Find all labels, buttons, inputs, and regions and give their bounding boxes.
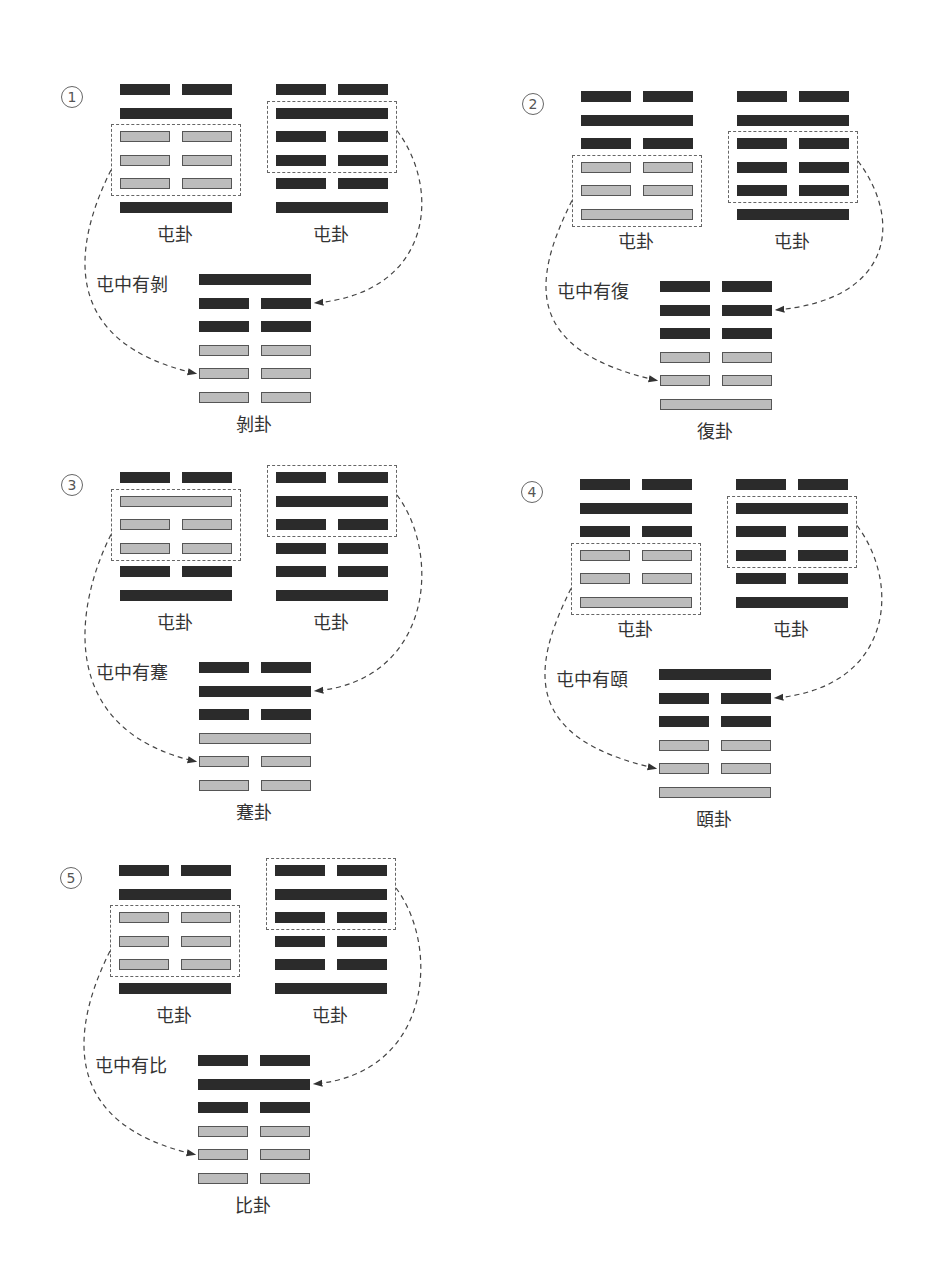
panel-1-result-hexagram-yin-line-3-right [261, 321, 311, 332]
panel-3-right-hexagram-yang-line-6 [276, 590, 388, 601]
panel-2-caption: 屯中有復 [557, 277, 629, 303]
panel-3-result-hexagram-yin-line-3-right [261, 709, 311, 720]
panel-3-left-hexagram-yin-line-5-left [120, 566, 170, 577]
panel-1-right-hexagram-yin-line-5-left [276, 178, 326, 189]
panel-5-result-hexagram-yin-line-1-right [260, 1055, 310, 1066]
panel-5-left-hexagram-yang-line-6 [119, 983, 231, 994]
panel-5-right-hexagram-label: 屯卦 [312, 1001, 348, 1027]
panel-1-right-hexagram-label: 屯卦 [313, 220, 349, 246]
panel-1-result-hexagram-yin-line-3-left [199, 321, 249, 332]
panel-4-right-hexagram-yin-line-1-right [798, 479, 848, 490]
panel-number-1: 1 [61, 86, 83, 108]
panel-number-5: 5 [60, 867, 82, 889]
panel-5-result-hexagram-yin-line-5-right [260, 1149, 310, 1160]
panel-2-result-hexagram-label: 復卦 [697, 417, 733, 443]
panel-5-result-hexagram-yin-line-3-left [198, 1102, 248, 1113]
panel-2-result-hexagram-yin-line-5-right [722, 375, 772, 386]
panel-4-right-dashed-box [727, 496, 857, 568]
panel-4-right-hexagram-label: 屯卦 [773, 615, 809, 641]
panel-5-left-hexagram-yang-line-2 [119, 889, 231, 900]
panel-4-right-hexagram-yin-line-1-left [736, 479, 786, 490]
panel-2-result-hexagram-yin-line-4-right [722, 352, 772, 363]
panel-5-left-dashed-box [110, 905, 240, 977]
panel-1-left-hexagram-label: 屯卦 [157, 220, 193, 246]
panel-4-result-hexagram-yin-line-2-right [721, 693, 771, 704]
panel-1-left-hexagram-yin-line-1-right [182, 84, 232, 95]
panel-3-right-dashed-box [267, 465, 397, 537]
panel-1-result-hexagram-yang-line-1 [199, 274, 311, 285]
panel-2-result-hexagram-yin-line-5-left [660, 375, 710, 386]
panel-3-result-hexagram-label: 蹇卦 [236, 798, 272, 824]
panel-4-result-hexagram-yin-line-5-right [721, 763, 771, 774]
panel-4-left-hexagram-yin-line-1-left [580, 479, 630, 490]
panel-3-right-hexagram-label: 屯卦 [313, 608, 349, 634]
panel-3-left-hexagram-yin-line-5-right [182, 566, 232, 577]
panel-4-right-hexagram-yang-line-6 [736, 597, 848, 608]
panel-5-left-hexagram-yin-line-1-left [119, 865, 169, 876]
panel-5-right-hexagram-yin-line-5-right [337, 959, 387, 970]
panel-number-2: 2 [522, 93, 544, 115]
panel-2-right-dashed-box [728, 131, 858, 203]
panel-2-right-hexagram-label: 屯卦 [774, 227, 810, 253]
panel-1-result-hexagram-label: 剝卦 [236, 410, 272, 436]
panel-4-left-hexagram-yin-line-3-right [642, 526, 692, 537]
panel-4-result-hexagram-yin-line-2-left [659, 693, 709, 704]
panel-1-left-hexagram-yin-line-1-left [120, 84, 170, 95]
panel-1-right-hexagram-yin-line-1-right [338, 84, 388, 95]
panel-5-result-hexagram-label: 比卦 [235, 1191, 271, 1217]
panel-5-right-hexagram-yin-line-5-left [275, 959, 325, 970]
panel-2-left-hexagram-yin-line-3-left [581, 138, 631, 149]
panel-4-result-hexagram-yin-line-4-right [721, 740, 771, 751]
panel-2-result-hexagram-yin-line-1-right [722, 281, 772, 292]
panel-4-result-hexagram-yin-line-3-right [721, 716, 771, 727]
panel-5-right-hexagram-yin-line-4-right [337, 936, 387, 947]
panel-3-result-hexagram-yin-line-6-left [199, 780, 249, 791]
panel-1-right-dashed-box [267, 101, 397, 173]
panel-5-result-hexagram-yin-line-1-left [198, 1055, 248, 1066]
panel-4-left-hexagram-yin-line-3-left [580, 526, 630, 537]
panel-4-result-hexagram-yang-line-1 [659, 669, 771, 680]
panel-5-result-hexagram-yang-line-2 [198, 1079, 310, 1090]
panel-5-result-hexagram-yin-line-4-right [260, 1126, 310, 1137]
panel-number-4: 4 [521, 481, 543, 503]
panel-4-result-hexagram-yin-line-3-left [659, 716, 709, 727]
panel-2-result-hexagram-yin-line-1-left [660, 281, 710, 292]
panel-5-left-hexagram-yin-line-1-right [181, 865, 231, 876]
panel-4-result-hexagram-yin-line-5-left [659, 763, 709, 774]
panel-2-left-hexagram-yin-line-1-left [581, 91, 631, 102]
panel-3-result-hexagram-yin-line-5-left [199, 756, 249, 767]
panel-3-right-hexagram-yin-line-4-left [276, 543, 326, 554]
panel-5-result-hexagram-yin-line-5-left [198, 1149, 248, 1160]
panel-3-result-hexagram-yang-line-2 [199, 686, 311, 697]
panel-4-right-hexagram-yin-line-5-left [736, 573, 786, 584]
panel-5-caption: 屯中有比 [95, 1051, 167, 1077]
panel-1-result-hexagram-yin-line-2-right [261, 298, 311, 309]
panel-2-right-hexagram-yin-line-1-right [799, 91, 849, 102]
panel-2-left-hexagram-yin-line-1-right [643, 91, 693, 102]
panel-4-left-hexagram-label: 屯卦 [617, 615, 653, 641]
panel-3-left-hexagram-yin-line-1-right [182, 472, 232, 483]
panel-3-right-hexagram-yin-line-4-right [338, 543, 388, 554]
panel-3-left-hexagram-label: 屯卦 [157, 608, 193, 634]
panel-4-caption: 屯中有頤 [556, 665, 628, 691]
panel-3-right-hexagram-yin-line-5-left [276, 566, 326, 577]
panel-1-result-hexagram-yin-line-4-left [199, 345, 249, 356]
panel-3-result-hexagram-yin-line-6-right [261, 780, 311, 791]
panel-2-result-hexagram-yin-line-3-left [660, 328, 710, 339]
panel-4-left-hexagram-yin-line-1-right [642, 479, 692, 490]
panel-2-result-hexagram-yin-line-2-left [660, 305, 710, 316]
panel-1-right-hexagram-yin-line-5-right [338, 178, 388, 189]
panel-3-result-hexagram-yin-line-1-right [261, 662, 311, 673]
panel-2-left-dashed-box [572, 155, 702, 227]
panel-1-left-hexagram-yang-line-2 [120, 108, 232, 119]
panel-5-right-hexagram-yin-line-4-left [275, 936, 325, 947]
panel-number-3: 3 [61, 474, 83, 496]
panel-1-result-hexagram-yin-line-5-left [199, 368, 249, 379]
panel-2-result-hexagram-yin-line-2-right [722, 305, 772, 316]
panel-2-right-hexagram-yin-line-1-left [737, 91, 787, 102]
panel-3-result-hexagram-yin-line-1-left [199, 662, 249, 673]
panel-2-result-hexagram-yang-line-6 [660, 399, 772, 410]
panel-3-left-hexagram-yang-line-6 [120, 590, 232, 601]
panel-5-result-hexagram-yin-line-6-right [260, 1173, 310, 1184]
panel-4-result-hexagram-yang-line-6 [659, 787, 771, 798]
